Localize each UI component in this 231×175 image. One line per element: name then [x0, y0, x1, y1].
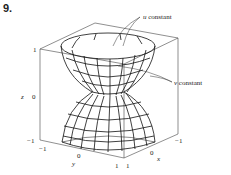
- u-constant-label: u constant: [143, 13, 172, 21]
- z-tick-0: 0: [32, 93, 36, 101]
- y-axis-label: y: [71, 160, 76, 168]
- x-tick-1: 1: [126, 162, 130, 170]
- v-constant-label: v constant: [174, 79, 202, 87]
- y-tick-0: 0: [77, 152, 81, 160]
- y-tick-1: 1: [115, 162, 119, 170]
- x-axis-label: x: [156, 155, 161, 163]
- x-tick-0: 0: [150, 149, 154, 157]
- z-axis-label: z: [20, 93, 24, 101]
- lower-surface: [62, 92, 155, 152]
- x-tick-neg1: −1: [175, 137, 183, 145]
- z-tick-1: 1: [33, 46, 37, 54]
- y-tick-neg1: −1: [39, 145, 47, 153]
- bounding-box: [40, 23, 178, 158]
- parametric-surface-figure: u constant v constant z 1 0 −1 −1 0 1 y …: [0, 0, 231, 175]
- upper-surface: [61, 33, 155, 96]
- z-tick-neg1: −1: [27, 137, 35, 145]
